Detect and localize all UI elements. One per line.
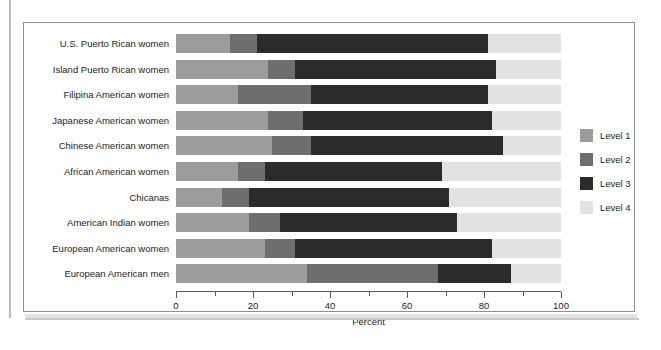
bar-segment-level-4	[492, 111, 561, 130]
bar-row: Island Puerto Rican women	[176, 60, 561, 79]
bar-segment-level-2	[230, 34, 257, 53]
x-tick	[215, 292, 216, 296]
bar-segment-level-4	[488, 34, 561, 53]
bar-row: Chicanas	[176, 188, 561, 207]
bar-segment-level-2	[307, 264, 438, 283]
x-tick-label: 40	[325, 300, 336, 311]
bar-row: European American women	[176, 239, 561, 258]
legend-item: Level 1	[580, 123, 660, 147]
legend-item: Level 2	[580, 147, 660, 171]
bar-segment-level-1	[176, 111, 268, 130]
x-tick	[369, 292, 370, 296]
x-tick-label: 100	[553, 300, 569, 311]
bar-segment-level-1	[176, 264, 307, 283]
stacked-bar	[176, 34, 561, 53]
bar-segment-level-3	[311, 85, 488, 104]
x-tick	[561, 292, 562, 298]
bar-segment-level-1	[176, 213, 249, 232]
bar-segment-level-1	[176, 34, 230, 53]
stacked-bar	[176, 239, 561, 258]
category-label: Island Puerto Rican women	[9, 60, 169, 79]
x-tick	[176, 292, 177, 298]
bar-segment-level-3	[295, 60, 495, 79]
bar-segment-level-1	[176, 136, 272, 155]
bar-segment-level-2	[249, 213, 280, 232]
x-tick-label: 80	[479, 300, 490, 311]
stacked-bar	[176, 136, 561, 155]
figure-root: U.S. Puerto Rican womenIsland Puerto Ric…	[0, 0, 661, 350]
bar-segment-level-3	[303, 111, 492, 130]
chart-card: U.S. Puerto Rican womenIsland Puerto Ric…	[23, 22, 635, 312]
bar-segment-level-3	[265, 162, 442, 181]
category-label: African American women	[9, 162, 169, 181]
stacked-bar	[176, 162, 561, 181]
x-tick-label: 60	[402, 300, 413, 311]
x-tick	[407, 292, 408, 298]
bar-segment-level-1	[176, 239, 265, 258]
bar-segment-level-2	[265, 239, 296, 258]
category-label: European American men	[9, 264, 169, 283]
stacked-bar	[176, 213, 561, 232]
stacked-bar	[176, 85, 561, 104]
legend-swatch-icon	[580, 177, 593, 190]
stacked-bar	[176, 60, 561, 79]
bar-segment-level-1	[176, 188, 222, 207]
card-shadow-lower	[25, 318, 639, 320]
bar-segment-level-4	[503, 136, 561, 155]
legend-label: Level 3	[600, 178, 631, 189]
legend-label: Level 4	[600, 202, 631, 213]
bar-row: American Indian women	[176, 213, 561, 232]
bar-segment-level-4	[488, 85, 561, 104]
bar-segment-level-1	[176, 60, 268, 79]
legend-swatch-icon	[580, 129, 593, 142]
stacked-bar	[176, 111, 561, 130]
bar-segment-level-3	[311, 136, 504, 155]
bar-row: Chinese American women	[176, 136, 561, 155]
x-tick	[484, 292, 485, 298]
bar-segment-level-2	[272, 136, 311, 155]
category-label: European American women	[9, 239, 169, 258]
stacked-bar	[176, 264, 561, 283]
bar-row: Filipina American women	[176, 85, 561, 104]
bar-segment-level-2	[268, 111, 303, 130]
bar-row: European American men	[176, 264, 561, 283]
bar-segment-level-2	[268, 60, 295, 79]
legend-item: Level 3	[580, 171, 660, 195]
bar-segment-level-3	[438, 264, 511, 283]
legend-swatch-icon	[580, 153, 593, 166]
x-tick	[330, 292, 331, 298]
bar-row: African American women	[176, 162, 561, 181]
bar-segment-level-1	[176, 162, 238, 181]
bar-segment-level-4	[496, 60, 561, 79]
x-tick	[292, 292, 293, 296]
bar-segment-level-2	[222, 188, 249, 207]
bar-segment-level-3	[280, 213, 457, 232]
plot-area: U.S. Puerto Rican womenIsland Puerto Ric…	[176, 31, 561, 291]
bar-segment-level-3	[249, 188, 449, 207]
stacked-bar	[176, 188, 561, 207]
faint-caption-remnant	[16, 0, 346, 7]
legend-swatch-icon	[580, 201, 593, 214]
category-label: Chinese American women	[9, 136, 169, 155]
x-tick	[523, 292, 524, 296]
bar-row: Japanese American women	[176, 111, 561, 130]
legend-label: Level 2	[600, 154, 631, 165]
bar-segment-level-4	[449, 188, 561, 207]
bar-segment-level-3	[295, 239, 491, 258]
bar-segment-level-4	[457, 213, 561, 232]
bar-segment-level-4	[442, 162, 561, 181]
bar-segment-level-2	[238, 162, 265, 181]
bar-segment-level-3	[257, 34, 488, 53]
x-tick	[446, 292, 447, 296]
bar-row: U.S. Puerto Rican women	[176, 34, 561, 53]
bar-segment-level-2	[238, 85, 311, 104]
category-label: Chicanas	[9, 188, 169, 207]
bar-segment-level-1	[176, 85, 238, 104]
x-tick-label: 20	[248, 300, 259, 311]
x-tick	[253, 292, 254, 298]
category-label: Filipina American women	[9, 85, 169, 104]
category-label: U.S. Puerto Rican women	[9, 34, 169, 53]
category-label: American Indian women	[9, 213, 169, 232]
bar-segment-level-4	[492, 239, 561, 258]
legend-item: Level 4	[580, 195, 660, 219]
